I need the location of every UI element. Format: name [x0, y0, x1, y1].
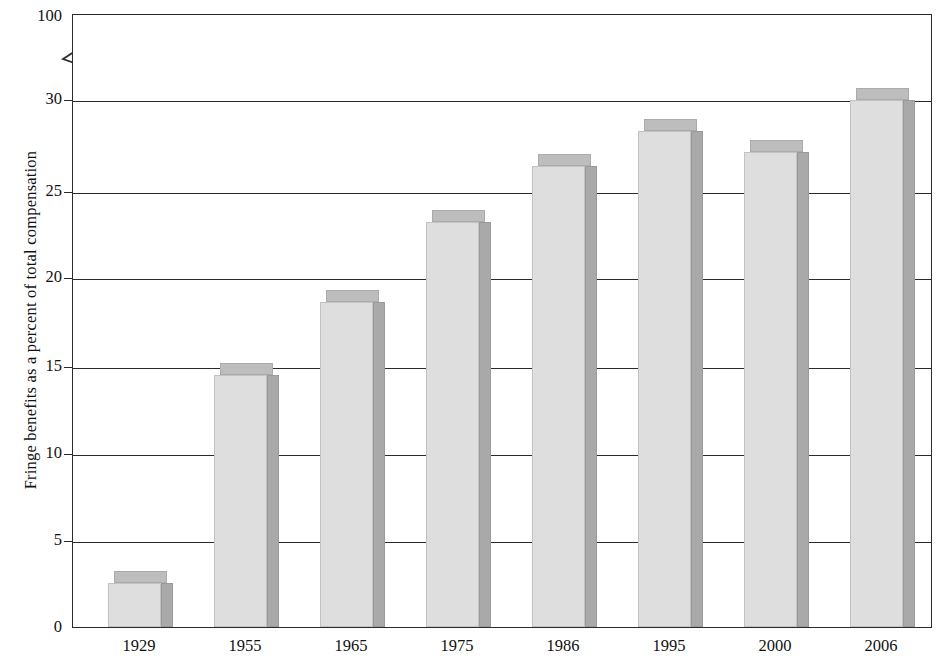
bar-front-face-1995: [638, 131, 691, 627]
bar-2000[interactable]: [744, 152, 797, 627]
bar-top-face-1986: [538, 154, 591, 166]
bar-1995[interactable]: [638, 131, 691, 627]
bar-top-face-1975: [432, 210, 485, 222]
bar-top-face-1965: [326, 290, 379, 302]
bar-top-face-1955: [220, 363, 273, 375]
y-tick-label-100: 100: [4, 6, 62, 26]
bar-1986[interactable]: [532, 166, 585, 627]
bar-top-face-2000: [750, 140, 803, 152]
y-tick-label-30: 30: [4, 89, 62, 109]
y-tick-mark-25: [64, 192, 72, 193]
y-tick-mark-30: [64, 100, 72, 101]
y-tick-mark-20: [64, 278, 72, 279]
bar-chart: Fringe benefits as a percent of total co…: [0, 0, 938, 660]
x-tick-label-1995: 1995: [624, 636, 714, 656]
bar-front-face-1955: [214, 375, 267, 627]
y-tick-label-25: 25: [4, 181, 62, 201]
y-axis-title: Fringe benefits as a percent of total co…: [21, 70, 41, 570]
bar-2006[interactable]: [850, 100, 903, 627]
bar-1975[interactable]: [426, 222, 479, 627]
x-tick-label-1986: 1986: [518, 636, 608, 656]
bar-side-face-1986: [585, 166, 597, 627]
bar-top-face-2006: [856, 88, 909, 100]
x-tick-label-1929: 1929: [94, 636, 184, 656]
y-tick-label-15: 15: [4, 356, 62, 376]
bar-side-face-2000: [797, 152, 809, 627]
gridline-30: [73, 101, 931, 102]
bar-side-face-1965: [373, 302, 385, 627]
y-tick-label-0: 0: [4, 617, 62, 637]
bar-front-face-1986: [532, 166, 585, 627]
plot-area: [72, 14, 932, 628]
bar-side-face-2006: [903, 100, 915, 627]
y-tick-label-5: 5: [4, 530, 62, 550]
bar-1965[interactable]: [320, 302, 373, 627]
x-tick-label-2000: 2000: [730, 636, 820, 656]
bar-front-face-1975: [426, 222, 479, 627]
x-tick-label-1955: 1955: [200, 636, 290, 656]
bar-1929[interactable]: [108, 583, 161, 627]
bar-side-face-1975: [479, 222, 491, 627]
y-tick-mark-10: [64, 454, 72, 455]
bar-front-face-1965: [320, 302, 373, 627]
bar-1955[interactable]: [214, 375, 267, 627]
x-tick-label-1975: 1975: [412, 636, 502, 656]
bar-side-face-1995: [691, 131, 703, 627]
bar-side-face-1955: [267, 375, 279, 627]
bar-side-face-1929: [161, 583, 173, 627]
bar-front-face-2000: [744, 152, 797, 627]
y-tick-mark-15: [64, 367, 72, 368]
y-tick-label-10: 10: [4, 443, 62, 463]
y-tick-label-20: 20: [4, 267, 62, 287]
bar-front-face-2006: [850, 100, 903, 627]
bar-top-face-1995: [644, 119, 697, 131]
x-tick-label-2006: 2006: [836, 636, 926, 656]
y-tick-mark-5: [64, 541, 72, 542]
x-tick-label-1965: 1965: [306, 636, 396, 656]
bar-front-face-1929: [108, 583, 161, 627]
bar-top-face-1929: [114, 571, 167, 583]
